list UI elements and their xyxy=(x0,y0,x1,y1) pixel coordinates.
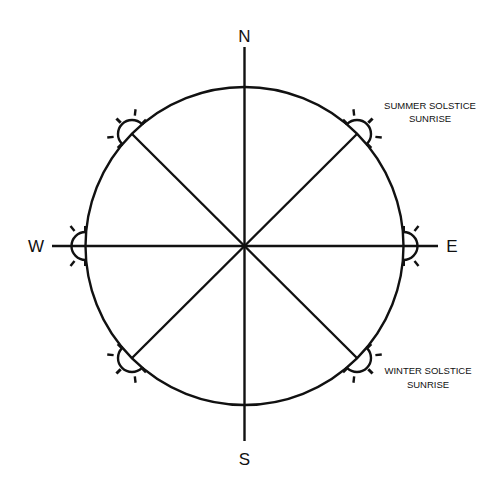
compass-diagram: N S E W SUMMER SOLSTICE SUNRISE WINTER S… xyxy=(0,0,495,488)
summer-solstice-label-line1: SUMMER SOLSTICE xyxy=(384,100,476,111)
winter-solstice-label-line1: WINTER SOLSTICE xyxy=(384,365,471,376)
north-label: N xyxy=(238,27,250,46)
winter-solstice-label-line2: SUNRISE xyxy=(407,379,449,390)
summer-solstice-label-line2: SUNRISE xyxy=(409,113,451,124)
south-label: S xyxy=(239,450,250,469)
east-label: E xyxy=(446,237,457,256)
west-label: W xyxy=(28,237,44,256)
